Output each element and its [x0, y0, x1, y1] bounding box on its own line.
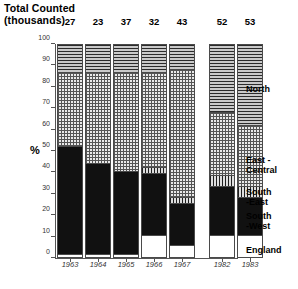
x-axis-label-1983: 1983	[235, 260, 265, 269]
y-axis-tick-label: 40	[42, 162, 50, 169]
bar-segment-south-east	[210, 176, 234, 187]
bar-segment-south-east	[170, 198, 194, 204]
legend-label-east-central: East - Central	[246, 155, 277, 175]
y-axis-tick	[51, 64, 55, 65]
bar-segment-england	[142, 236, 166, 257]
bar-1964[interactable]	[85, 44, 111, 258]
bar-segment-south-west	[58, 147, 82, 255]
x-axis-label-1964: 1964	[83, 260, 113, 269]
legend-label-south-west: South -West	[246, 211, 272, 231]
y-axis-tick-label: 30	[42, 183, 50, 190]
y-axis-tick	[51, 171, 55, 172]
bar-segment-england	[114, 255, 138, 257]
legend-label-england: England	[246, 245, 282, 255]
stacked-bar-chart: Total Counted (thousands) 27233732435253…	[0, 0, 298, 289]
y-axis-tick-label: 100	[38, 34, 50, 41]
y-axis-tick	[51, 129, 55, 130]
x-axis-label-1965: 1965	[111, 260, 141, 269]
bar-segment-england	[170, 246, 194, 257]
y-axis-tick	[51, 43, 55, 44]
x-axis-label-1967: 1967	[167, 260, 197, 269]
bar-segment-east-central	[114, 73, 138, 173]
bar-segment-north	[114, 45, 138, 73]
total-counted-1982: 52	[209, 16, 235, 27]
y-axis-tick-label: 0	[46, 248, 50, 255]
bar-1965[interactable]	[113, 44, 139, 258]
y-axis-label: %	[30, 144, 40, 156]
y-axis-tick-label: 20	[42, 205, 50, 212]
bar-segment-east-central	[58, 73, 82, 147]
x-axis-label-1963: 1963	[55, 260, 85, 269]
y-axis-tick	[51, 86, 55, 87]
total-counted-1964: 23	[85, 16, 111, 27]
bar-segment-south-west	[86, 164, 110, 255]
bar-segment-east-central	[210, 113, 234, 177]
x-axis-label-1982: 1982	[207, 260, 237, 269]
y-axis-tick-label: 70	[42, 98, 50, 105]
y-axis-line	[55, 44, 56, 258]
y-axis-tick	[51, 214, 55, 215]
total-counted-1983: 53	[237, 16, 263, 27]
legend-label-south-east: South -East	[246, 187, 272, 207]
plot-area: 0102030405060708090100	[56, 44, 238, 258]
y-axis-tick-label: 50	[42, 141, 50, 148]
bar-segment-east-central	[86, 73, 110, 164]
bar-segment-east-central	[170, 70, 194, 197]
bar-segment-south-west	[210, 187, 234, 236]
bar-1966[interactable]	[141, 44, 167, 258]
y-axis-tick-label: 80	[42, 76, 50, 83]
bar-segment-england	[210, 236, 234, 257]
y-axis-tick	[51, 193, 55, 194]
x-axis-label-1966: 1966	[139, 260, 169, 269]
y-axis-tick	[51, 150, 55, 151]
total-counted-1966: 32	[141, 16, 167, 27]
chart-title-line1: Total Counted	[4, 2, 75, 14]
bar-segment-south-east	[142, 168, 166, 174]
bar-segment-north	[58, 45, 82, 73]
y-axis-tick	[51, 257, 55, 258]
bar-1967[interactable]	[169, 44, 195, 258]
bar-segment-east-central	[142, 73, 166, 168]
bar-segment-north	[86, 45, 110, 73]
y-axis-tick	[51, 107, 55, 108]
x-axis-line	[55, 258, 238, 259]
bar-segment-north	[142, 45, 166, 73]
total-counted-1967: 43	[169, 16, 195, 27]
legend-label-north: North	[246, 84, 270, 94]
y-axis-tick	[51, 236, 55, 237]
y-axis-tick-label: 90	[42, 55, 50, 62]
total-counted-1963: 27	[57, 16, 83, 27]
y-axis-tick-label: 60	[42, 119, 50, 126]
bar-1963[interactable]	[57, 44, 83, 258]
bar-segment-south-west	[114, 172, 138, 255]
total-counted-1965: 37	[113, 16, 139, 27]
bar-1982[interactable]	[209, 44, 235, 258]
bar-segment-north	[170, 45, 194, 70]
bar-segment-england	[58, 255, 82, 257]
bar-segment-south-west	[142, 174, 166, 235]
bar-segment-england	[86, 255, 110, 257]
y-axis-tick-label: 10	[42, 226, 50, 233]
bar-segment-south-west	[170, 204, 194, 246]
bar-segment-north	[210, 45, 234, 113]
